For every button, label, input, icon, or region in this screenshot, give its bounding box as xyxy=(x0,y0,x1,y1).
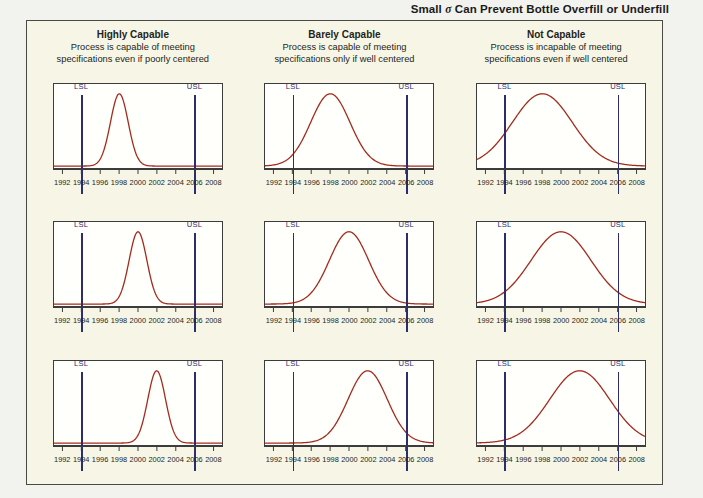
usl-limit-label: USL xyxy=(610,220,625,229)
x-tick-label: 2002 xyxy=(572,455,588,464)
x-axis: 199219941996199820002002200420062008 xyxy=(53,307,223,331)
usl-limit-label: USL xyxy=(398,220,413,229)
x-tick-labels: 199219941996199820002002200420062008 xyxy=(476,178,646,191)
x-tick-label: 2000 xyxy=(553,178,569,187)
column-header-barely-capable: Barely Capable Process is capable of mee… xyxy=(239,21,451,68)
x-tick-labels: 199219941996199820002002200420062008 xyxy=(264,316,434,329)
x-tick-label: 2004 xyxy=(591,455,607,464)
column-title: Not Capable xyxy=(456,29,656,40)
x-tick-label: 1998 xyxy=(534,316,550,325)
x-tick-label: 1996 xyxy=(303,316,319,325)
axis-ticks xyxy=(53,446,223,455)
column-title: Highly Capable xyxy=(33,29,233,40)
column-title: Barely Capable xyxy=(245,29,445,40)
usl-limit-label: USL xyxy=(610,82,625,91)
x-axis: 199219941996199820002002200420062008 xyxy=(264,169,434,193)
x-axis: 199219941996199820002002200420062008 xyxy=(476,169,646,193)
x-tick-label: 1998 xyxy=(322,455,338,464)
axis-ticks xyxy=(476,446,646,455)
x-tick-label: 2004 xyxy=(167,316,183,325)
x-tick-label: 2002 xyxy=(148,455,164,464)
x-tick-label: 2008 xyxy=(205,316,221,325)
x-tick-label: 2006 xyxy=(186,455,202,464)
x-tick-labels: 199219941996199820002002200420062008 xyxy=(476,316,646,329)
x-tick-label: 1996 xyxy=(515,455,531,464)
figure-title-after: Can Prevent Bottle Overfill or Underfill xyxy=(451,3,669,15)
x-tick-label: 2004 xyxy=(379,178,395,187)
x-tick-label: 2006 xyxy=(610,178,626,187)
x-tick-label: 2006 xyxy=(398,455,414,464)
x-tick-label: 2008 xyxy=(628,455,644,464)
x-tick-label: 2004 xyxy=(379,455,395,464)
x-tick-label: 2008 xyxy=(417,316,433,325)
x-tick-label: 1996 xyxy=(303,178,319,187)
x-tick-label: 1992 xyxy=(266,178,282,187)
x-tick-label: 2002 xyxy=(572,316,588,325)
x-tick-labels: 199219941996199820002002200420062008 xyxy=(53,178,223,191)
plot-area xyxy=(264,221,434,307)
x-axis: 199219941996199820002002200420062008 xyxy=(476,307,646,331)
chart-cell-r3c3: LSLUSL1992199419961998200020022004200620… xyxy=(450,345,662,484)
x-tick-label: 1994 xyxy=(285,178,301,187)
x-tick-labels: 199219941996199820002002200420062008 xyxy=(264,455,434,468)
lsl-limit-label: LSL xyxy=(286,220,300,229)
chart-cell-r1c1: LSLUSL1992199419961998200020022004200620… xyxy=(27,68,239,207)
x-tick-label: 2000 xyxy=(130,455,146,464)
plot-area xyxy=(476,221,646,307)
column-header-not-capable: Not Capable Process is incapable of meet… xyxy=(450,21,662,68)
x-tick-label: 1998 xyxy=(322,316,338,325)
x-tick-label: 2008 xyxy=(628,178,644,187)
column-subtitle-line2: specifications even if poorly centered xyxy=(33,54,233,66)
column-subtitle-line1: Process is capable of meeting xyxy=(245,42,445,54)
x-tick-label: 2004 xyxy=(591,178,607,187)
x-tick-labels: 199219941996199820002002200420062008 xyxy=(53,316,223,329)
x-tick-label: 1992 xyxy=(477,178,493,187)
axis-ticks xyxy=(264,446,434,455)
usl-limit-label: USL xyxy=(398,359,413,368)
x-tick-label: 1996 xyxy=(92,178,108,187)
chart-cell-r2c1: LSLUSL1992199419961998200020022004200620… xyxy=(27,207,239,346)
lsl-limit-label: LSL xyxy=(74,82,88,91)
lsl-limit-label: LSL xyxy=(497,220,511,229)
plot-area xyxy=(53,221,223,307)
x-tick-label: 1998 xyxy=(534,455,550,464)
column-subtitle-line1: Process is capable of meeting xyxy=(33,42,233,54)
usl-limit-label: USL xyxy=(187,82,202,91)
x-tick-label: 1992 xyxy=(266,316,282,325)
x-tick-labels: 199219941996199820002002200420062008 xyxy=(264,178,434,191)
usl-limit-label: USL xyxy=(187,220,202,229)
x-tick-label: 2004 xyxy=(167,455,183,464)
x-tick-label: 2006 xyxy=(186,316,202,325)
x-tick-label: 2006 xyxy=(398,178,414,187)
x-tick-label: 1994 xyxy=(73,178,89,187)
x-tick-label: 1992 xyxy=(477,316,493,325)
plot-area xyxy=(476,83,646,169)
x-tick-labels: 199219941996199820002002200420062008 xyxy=(53,455,223,468)
x-tick-label: 2006 xyxy=(398,316,414,325)
usl-limit-label: USL xyxy=(187,359,202,368)
chart-cell-r3c1: LSLUSL1992199419961998200020022004200620… xyxy=(27,345,239,484)
chart-grid: Highly Capable Process is capable of mee… xyxy=(27,21,662,484)
x-tick-label: 1998 xyxy=(111,316,127,325)
figure-panel: Highly Capable Process is capable of mee… xyxy=(26,20,663,485)
x-axis: 199219941996199820002002200420062008 xyxy=(53,169,223,193)
x-tick-label: 2006 xyxy=(610,455,626,464)
x-tick-label: 2000 xyxy=(341,455,357,464)
x-tick-label: 2004 xyxy=(379,316,395,325)
x-tick-label: 1998 xyxy=(111,455,127,464)
x-tick-label: 1994 xyxy=(496,178,512,187)
lsl-limit-label: LSL xyxy=(74,359,88,368)
x-tick-label: 2002 xyxy=(148,316,164,325)
chart-cell-r2c2: LSLUSL1992199419961998200020022004200620… xyxy=(239,207,451,346)
x-tick-label: 2006 xyxy=(186,178,202,187)
x-tick-label: 1996 xyxy=(303,455,319,464)
x-tick-label: 2000 xyxy=(130,316,146,325)
usl-limit-label: USL xyxy=(610,359,625,368)
x-tick-label: 1996 xyxy=(515,178,531,187)
chart-cell-r1c2: LSLUSL1992199419961998200020022004200620… xyxy=(239,68,451,207)
x-tick-label: 1992 xyxy=(54,178,70,187)
lsl-limit-label: LSL xyxy=(497,359,511,368)
x-tick-label: 2006 xyxy=(610,316,626,325)
x-tick-label: 2008 xyxy=(417,455,433,464)
plot-area xyxy=(264,83,434,169)
